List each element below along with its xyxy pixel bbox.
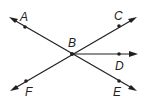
label-b: B xyxy=(68,36,76,50)
point-d xyxy=(117,52,121,56)
label-e: E xyxy=(113,85,122,99)
label-d: D xyxy=(115,59,124,73)
label-f: F xyxy=(25,85,33,99)
point-a xyxy=(23,25,27,29)
point-f xyxy=(24,79,28,83)
label-a: A xyxy=(19,10,28,24)
geometry-diagram: A C B D E F xyxy=(0,0,145,102)
label-c: C xyxy=(114,9,123,23)
point-c xyxy=(117,24,121,28)
point-e xyxy=(117,79,121,83)
arrowhead-d-icon xyxy=(129,51,138,57)
point-b xyxy=(70,52,74,56)
